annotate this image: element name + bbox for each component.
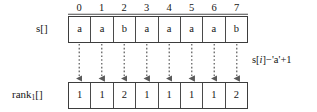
index-label-7: 7 [226,2,248,13]
row-label-s-text: s[] [36,22,48,34]
formula-annotation: s[i]−'a'+1 [252,54,292,65]
formula-suffix: ]−'a'+1 [263,54,292,65]
cell-s-3: a [136,17,158,42]
row-label-s: s[] [36,22,48,34]
cell-rank1-5: 1 [181,83,203,108]
cell-rank1-6: 1 [203,83,225,108]
row-label-rank1-suffix: [] [35,88,42,100]
index-label-5: 5 [181,2,203,13]
index-label-2: 2 [113,2,135,13]
array-row-s: a a b a a a a b [68,16,248,43]
cell-s-2: b [114,17,136,42]
cell-rank1-0: 1 [69,83,91,108]
cell-s-5: a [181,17,203,42]
index-label-1: 1 [91,2,113,13]
cell-s-7: b [226,17,247,42]
cell-rank1-3: 1 [136,83,158,108]
index-label-6: 6 [203,2,225,13]
index-label-3: 3 [136,2,158,13]
cell-rank1-1: 1 [91,83,113,108]
cell-s-4: a [159,17,181,42]
cell-rank1-4: 1 [159,83,181,108]
formula-prefix: s[ [252,54,260,65]
rank-array-diagram: 0 1 2 3 4 5 6 7 s[] a a b a a a a b rank… [0,0,317,112]
cell-s-6: a [203,17,225,42]
index-label-0: 0 [68,2,90,13]
cell-rank1-2: 2 [114,83,136,108]
index-label-4: 4 [158,2,180,13]
cell-s-1: a [91,17,113,42]
row-label-rank1: rank1[] [12,88,43,102]
cell-rank1-7: 2 [226,83,247,108]
row-label-rank1-base: rank [12,88,32,100]
cell-s-0: a [69,17,91,42]
array-row-rank1: 1 1 2 1 1 1 1 2 [68,82,248,109]
